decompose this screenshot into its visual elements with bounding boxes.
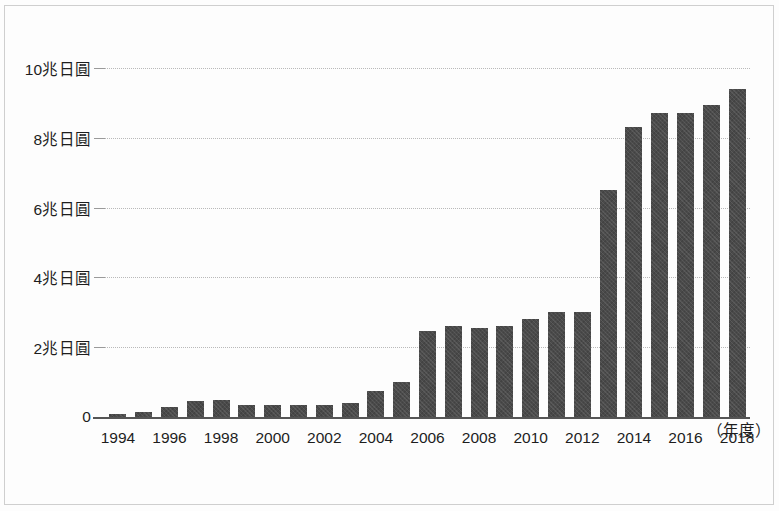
y-axis-label: 2兆日圓: [34, 336, 91, 358]
bar: [445, 326, 462, 417]
bar: [522, 319, 539, 417]
bar: [625, 127, 642, 417]
y-axis-label: 6兆日圓: [34, 197, 91, 219]
bar: [342, 403, 359, 417]
bar: [213, 400, 230, 417]
bar: [161, 407, 178, 417]
bar: [290, 405, 307, 417]
bar: [238, 405, 255, 417]
bar: [109, 414, 126, 417]
y-axis-label: 8兆日圓: [34, 127, 91, 149]
x-axis-label: 1994: [101, 429, 135, 447]
y-axis-tick: [94, 138, 105, 139]
plot-area: 02兆日圓4兆日圓6兆日圓8兆日圓10兆日圓 19941996199820002…: [105, 40, 750, 418]
y-axis-tick: [94, 347, 105, 348]
bar: [367, 391, 384, 417]
x-axis-label: 2002: [307, 429, 341, 447]
y-axis-label: 10兆日圓: [25, 57, 91, 79]
bar: [187, 401, 204, 417]
x-axis-label: 2006: [410, 429, 444, 447]
bar: [651, 113, 668, 417]
bar: [729, 89, 746, 417]
x-axis-label: 1996: [152, 429, 186, 447]
bar: [677, 113, 694, 417]
x-axis-line: [93, 417, 750, 419]
x-axis-label: 2008: [462, 429, 496, 447]
x-axis-label: 2010: [513, 429, 547, 447]
chart-page: 02兆日圓4兆日圓6兆日圓8兆日圓10兆日圓 19941996199820002…: [0, 0, 779, 511]
x-axis-label: 2004: [359, 429, 393, 447]
bar: [471, 328, 488, 417]
bar: [316, 405, 333, 417]
x-axis-label: 2000: [255, 429, 289, 447]
bar: [574, 312, 591, 417]
bar-series: [105, 40, 750, 417]
x-axis-label: 2016: [668, 429, 702, 447]
x-axis-caption: （年度）: [707, 418, 771, 440]
bar-chart: 02兆日圓4兆日圓6兆日圓8兆日圓10兆日圓 19941996199820002…: [0, 0, 779, 511]
y-axis-tick: [94, 68, 105, 69]
bar: [496, 326, 513, 417]
bar: [548, 312, 565, 417]
y-axis-tick: [94, 277, 105, 278]
y-axis-tick: [94, 208, 105, 209]
y-axis-label: 4兆日圓: [34, 266, 91, 288]
x-axis-label: 2014: [617, 429, 651, 447]
x-axis-label: 2012: [565, 429, 599, 447]
y-axis-label: 0: [82, 408, 91, 426]
bar: [703, 105, 720, 417]
bar: [600, 190, 617, 417]
bar: [135, 412, 152, 417]
bar: [393, 382, 410, 417]
bar: [264, 405, 281, 417]
bar: [419, 331, 436, 417]
x-axis-label: 1998: [204, 429, 238, 447]
